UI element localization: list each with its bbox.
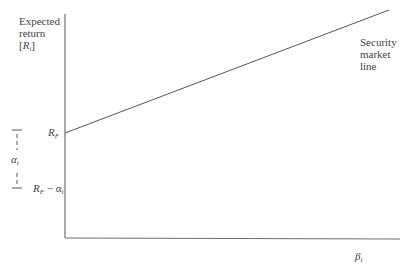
- alpha-bracket-subscript: i: [17, 159, 19, 167]
- diagram-canvas: [0, 0, 411, 266]
- lower-label: RF − αi: [33, 182, 63, 198]
- y-axis-label-line2: return: [19, 27, 60, 39]
- rf-alpha-symbol: R: [33, 182, 40, 194]
- x-axis-label: βi: [355, 250, 362, 266]
- sml-label-line2: market: [360, 48, 397, 60]
- rf-symbol: R: [48, 126, 55, 138]
- y-axis-label-line1: Expected: [19, 15, 60, 27]
- alpha-subscript: i: [61, 188, 63, 196]
- x-axis: [65, 238, 400, 239]
- beta-subscript: i: [360, 256, 362, 264]
- y-label-subscript: i: [29, 45, 31, 53]
- sml-label-line1: Security: [360, 36, 397, 48]
- rf-subscript: F: [55, 132, 59, 140]
- alpha-label: αi: [11, 152, 19, 170]
- intercept-label: RF: [48, 126, 59, 142]
- sml-label-line3: line: [360, 60, 397, 72]
- y-axis-label-line3: [Ri]: [19, 39, 60, 55]
- minus-alpha: − α: [44, 182, 61, 194]
- y-axis-label: Expected return [Ri]: [19, 15, 60, 55]
- sml-label: Security market line: [360, 36, 397, 72]
- security-market-line: [65, 10, 389, 133]
